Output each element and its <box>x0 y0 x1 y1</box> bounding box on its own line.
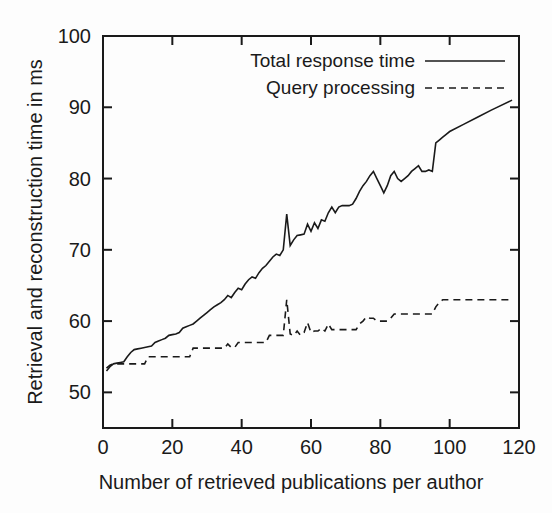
legend-label-1: Total response time <box>250 50 415 71</box>
x-tick-label: 0 <box>97 436 108 458</box>
y-axis-tick-labels: 5060708090100 <box>58 25 91 403</box>
chart-figure: 5060708090100 020406080100120 Total resp… <box>0 0 552 513</box>
x-tick-label: 100 <box>433 436 466 458</box>
series-line-2 <box>106 300 512 368</box>
series-line-1 <box>106 100 512 371</box>
x-tick-label: 120 <box>502 436 535 458</box>
y-tick-label: 50 <box>69 381 91 403</box>
x-axis-title: Number of retrieved publications per aut… <box>99 471 484 493</box>
y-tick-label: 60 <box>69 310 91 332</box>
y-tick-label: 100 <box>58 25 91 47</box>
legend-label-2: Query processing <box>266 77 415 98</box>
x-axis-tick-labels: 020406080100120 <box>97 436 535 458</box>
data-series-group <box>106 100 512 371</box>
y-tick-label: 90 <box>69 96 91 118</box>
legend: Total response timeQuery processing <box>250 50 505 98</box>
x-tick-label: 80 <box>369 436 391 458</box>
y-axis-title: Retrieval and reconstruction time in ms <box>24 59 46 405</box>
x-tick-label: 20 <box>161 436 183 458</box>
y-tick-label: 80 <box>69 168 91 190</box>
x-tick-label: 40 <box>231 436 253 458</box>
y-tick-label: 70 <box>69 239 91 261</box>
line-chart-svg: 5060708090100 020406080100120 Total resp… <box>0 0 552 513</box>
x-tick-label: 60 <box>300 436 322 458</box>
